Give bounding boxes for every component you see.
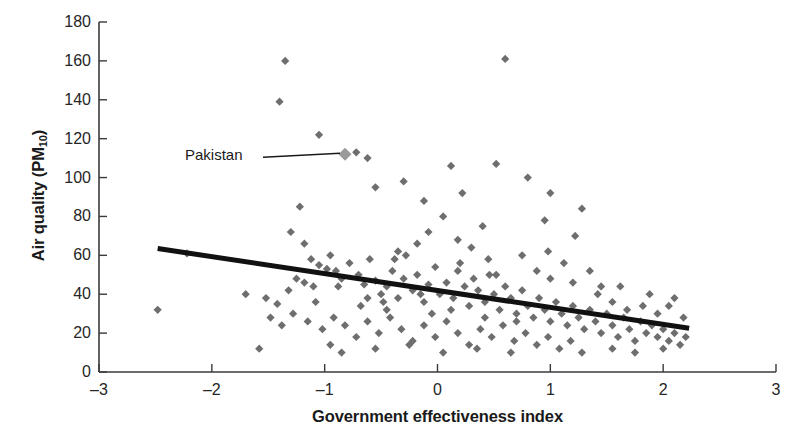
scatter-point — [665, 337, 673, 345]
highlighted-data-point — [338, 148, 351, 161]
scatter-point — [488, 333, 496, 341]
scatter-point — [454, 267, 462, 275]
scatter-point — [420, 298, 428, 306]
scatter-point — [454, 329, 462, 337]
scatter-point — [546, 275, 554, 283]
scatter-point — [552, 298, 560, 306]
scatter-point — [476, 325, 484, 333]
trend-line — [158, 249, 689, 329]
scatter-point — [597, 282, 605, 290]
annotation-leader-line — [263, 153, 340, 157]
scatter-point — [400, 177, 408, 185]
scatter-point — [363, 154, 371, 162]
scatter-point — [571, 232, 579, 240]
scatter-point — [529, 313, 537, 321]
scatter-point — [512, 310, 520, 318]
scatter-point — [379, 298, 387, 306]
scatter-point — [653, 310, 661, 318]
scatter-point — [533, 267, 541, 275]
scatter-point — [420, 197, 428, 205]
scatter-point — [431, 333, 439, 341]
scatter-point — [524, 173, 532, 181]
scatter-point — [521, 329, 529, 337]
scatter-point — [318, 325, 326, 333]
scatter-point — [454, 236, 462, 244]
scatter-point — [439, 348, 447, 356]
scatter-points — [154, 55, 690, 357]
scatter-point — [296, 203, 304, 211]
scatter-point — [266, 313, 274, 321]
scatter-point — [473, 345, 481, 353]
scatter-point — [388, 267, 396, 275]
scatter-point — [465, 341, 473, 349]
scatter-point — [492, 271, 500, 279]
axis-ticks — [99, 22, 776, 372]
scatter-point — [300, 278, 308, 286]
scatter-point — [608, 345, 616, 353]
scatter-point — [474, 286, 482, 294]
scatter-point — [501, 282, 509, 290]
annotation-markers — [263, 148, 352, 161]
scatter-point — [616, 282, 624, 290]
scatter-point — [507, 348, 515, 356]
scatter-point — [275, 98, 283, 106]
scatter-point — [428, 310, 436, 318]
scatter-point — [366, 255, 374, 263]
scatter-point — [639, 302, 647, 310]
scatter-point — [560, 259, 568, 267]
scatter-point — [326, 251, 334, 259]
scatter-point — [665, 302, 673, 310]
scatter-point — [510, 337, 518, 345]
scatter-point — [300, 240, 308, 248]
scatter-point — [533, 341, 541, 349]
scatter-point — [377, 290, 385, 298]
scatter-point — [631, 337, 639, 345]
scatter-point — [334, 282, 342, 290]
scatter-point — [413, 240, 421, 248]
scatter-point — [555, 345, 563, 353]
scatter-point — [439, 212, 447, 220]
scatter-point — [456, 259, 464, 267]
scatter-point — [315, 261, 323, 269]
scatter-point — [413, 271, 421, 279]
scatter-point — [242, 290, 250, 298]
scatter-point — [304, 317, 312, 325]
scatter-point — [670, 329, 678, 337]
scatter-point — [281, 57, 289, 65]
scatter-point — [544, 333, 552, 341]
scatter-point — [424, 228, 432, 236]
scatter-point — [309, 282, 317, 290]
scatter-point — [337, 348, 345, 356]
scatter-point — [465, 302, 473, 310]
scatter-point — [400, 275, 408, 283]
scatter-point — [307, 255, 315, 263]
scatter-point — [614, 333, 622, 341]
scatter-point — [586, 267, 594, 275]
scatter-point — [481, 313, 489, 321]
scatter-point — [363, 294, 371, 302]
scatter-point — [420, 321, 428, 329]
scatter-point — [330, 313, 338, 321]
scatter-point — [397, 325, 405, 333]
scatter-point — [541, 216, 549, 224]
scatter-point — [623, 306, 631, 314]
scatter-point — [278, 321, 286, 329]
scatter-point — [682, 333, 690, 341]
scatter-point — [375, 329, 383, 337]
scatter-point — [512, 317, 520, 325]
scatter-point — [608, 321, 616, 329]
scatter-point — [578, 205, 586, 213]
scatter-point — [255, 345, 263, 353]
scatter-point — [608, 298, 616, 306]
scatter-point — [416, 290, 424, 298]
scatter-point — [479, 222, 487, 230]
scatter-point — [363, 317, 371, 325]
scatter-point — [625, 325, 633, 333]
scatter-point — [383, 306, 391, 314]
scatter-point — [352, 148, 360, 156]
scatter-point — [442, 278, 450, 286]
scatter-point — [492, 160, 500, 168]
scatter-point — [442, 317, 450, 325]
scatter-point — [447, 162, 455, 170]
